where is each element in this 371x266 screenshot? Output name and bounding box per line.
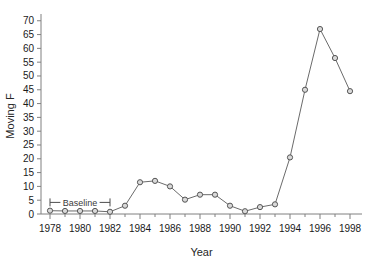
- data-point-marker: [302, 87, 307, 92]
- data-point-marker: [182, 197, 187, 202]
- x-tick-label: 1978: [39, 223, 62, 234]
- y-tick-label: 70: [23, 15, 35, 26]
- line-chart: 0510152025303540455055606570 19781980198…: [0, 0, 371, 266]
- data-point-marker: [272, 202, 277, 207]
- y-tick-label: 0: [28, 209, 34, 220]
- data-point-marker: [317, 26, 322, 31]
- chart-container: 0510152025303540455055606570 19781980198…: [0, 0, 371, 266]
- data-point-marker: [287, 155, 292, 160]
- x-tick-label: 1982: [99, 223, 122, 234]
- x-tick-label: 1996: [309, 223, 332, 234]
- y-tick-label: 65: [23, 29, 35, 40]
- x-axis-title: Year: [190, 246, 213, 258]
- y-tick-label: 40: [23, 98, 35, 109]
- y-tick-label: 55: [23, 57, 35, 68]
- data-point-marker: [137, 180, 142, 185]
- x-tick-label: 1992: [249, 223, 272, 234]
- y-axis-title: Moving F: [4, 93, 16, 139]
- x-tick-label: 1988: [189, 223, 212, 234]
- y-tick-label: 30: [23, 126, 35, 137]
- data-point-marker: [227, 203, 232, 208]
- baseline-annotation-label: Baseline: [63, 198, 98, 208]
- data-point-marker: [347, 89, 352, 94]
- data-point-marker: [332, 55, 337, 60]
- data-point-marker: [77, 208, 82, 213]
- data-point-marker: [167, 184, 172, 189]
- y-tick-label: 5: [28, 195, 34, 206]
- data-point-marker: [107, 209, 112, 214]
- data-point-marker: [62, 208, 67, 213]
- y-tick-label: 60: [23, 43, 35, 54]
- y-tick-label: 10: [23, 181, 35, 192]
- data-point-marker: [197, 192, 202, 197]
- x-tick-label: 1990: [219, 223, 242, 234]
- data-point-marker: [152, 178, 157, 183]
- x-tick-label: 1998: [339, 223, 362, 234]
- data-point-marker: [47, 208, 52, 213]
- x-tick-label: 1980: [69, 223, 92, 234]
- y-tick-label: 50: [23, 70, 35, 81]
- data-point-marker: [92, 208, 97, 213]
- data-point-marker: [122, 203, 127, 208]
- y-tick-label: 45: [23, 84, 35, 95]
- y-tick-label: 20: [23, 153, 35, 164]
- y-tick-label: 15: [23, 167, 35, 178]
- y-tick-label: 35: [23, 112, 35, 123]
- y-tick-label: 25: [23, 139, 35, 150]
- x-tick-label: 1986: [159, 223, 182, 234]
- data-point-marker: [242, 209, 247, 214]
- data-point-marker: [257, 205, 262, 210]
- x-tick-label: 1994: [279, 223, 302, 234]
- data-point-marker: [212, 192, 217, 197]
- x-tick-label: 1984: [129, 223, 152, 234]
